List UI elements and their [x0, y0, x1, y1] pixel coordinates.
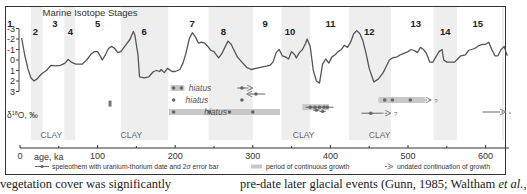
glacial-band	[209, 7, 253, 140]
dated-sample	[391, 98, 395, 102]
dated-sample	[409, 98, 413, 102]
y-tick-label: -1	[7, 45, 15, 55]
dated-sample	[254, 92, 258, 96]
dated-sample	[172, 110, 176, 114]
stage-label: 9	[263, 18, 268, 29]
dated-sample	[228, 110, 232, 114]
dated-sample	[240, 86, 244, 90]
x-tick-label: 500	[400, 151, 415, 161]
stage-label: 3	[52, 18, 57, 29]
grey-bar-symbol	[251, 165, 262, 169]
dated-sample	[180, 86, 184, 90]
stage-label: 10	[285, 26, 296, 37]
y-tick-label: 1	[10, 66, 15, 76]
stage-label: 7	[190, 18, 195, 29]
svg-text:≈: ≈	[509, 110, 511, 116]
clay-label: CLAY	[41, 130, 63, 140]
clay-label: CLAY	[369, 130, 391, 140]
speleothem-sample	[109, 101, 112, 107]
body-text-left: vegetation cover was significantly	[0, 177, 171, 192]
dated-sample	[383, 98, 387, 102]
legend-label: undated continuation of growth	[397, 163, 490, 171]
x-tick-label: 600	[478, 151, 493, 161]
dated-sample	[240, 98, 244, 102]
svg-text:?: ?	[394, 111, 398, 117]
y-axis-label: δ18O, ‰	[7, 110, 38, 120]
body-text-right: pre-date later glacial events (Gunn, 198…	[240, 177, 527, 192]
stage-label: 8	[221, 26, 226, 37]
dated-sample	[308, 105, 312, 109]
clay-label: CLAY	[121, 130, 143, 140]
x-tick-label: 200	[168, 151, 183, 161]
x-axis: 0100200300400500600	[17, 145, 508, 161]
dated-sample	[313, 105, 317, 109]
glacial-band	[502, 7, 504, 140]
stage-label: 2	[33, 26, 38, 37]
legend-label: speleothem with uranium-thorium date and…	[52, 163, 219, 171]
x-tick-label: 300	[245, 151, 260, 161]
body-text-right-prefix: pre-date later glacial events (Gunn, 198…	[240, 177, 498, 191]
hiatus-label: hiatus	[204, 107, 227, 117]
x-tick-label: 100	[90, 151, 105, 161]
body-text-left-span: vegetation cover was significantly	[0, 177, 171, 191]
x-axis-label: age, ka	[34, 152, 64, 162]
hiatus-label: hiatus	[189, 83, 212, 93]
dated-sample	[325, 105, 329, 109]
stage-label: 12	[364, 26, 375, 37]
stage-label: 5	[95, 18, 101, 29]
legend: speleothem with uranium-thorium date and…	[35, 163, 490, 171]
x-tick-label: 400	[323, 151, 338, 161]
dated-sample	[322, 105, 326, 109]
y-tick-label: 0	[10, 55, 15, 65]
body-text-right-italic: et al.	[498, 177, 523, 191]
clay-label: CLAY	[293, 130, 315, 140]
dated-sample	[369, 111, 373, 115]
y-tick-label: 2	[10, 76, 15, 86]
y-axis: -3-2-10123	[7, 24, 19, 97]
dated-sample	[251, 110, 255, 114]
y-tick-label: -3	[7, 24, 15, 34]
stage-label: 6	[142, 26, 147, 37]
stage-label: 14	[440, 26, 451, 37]
stage-label: 11	[325, 18, 336, 29]
dated-sample	[318, 105, 322, 109]
hiatus-label: hiatus	[186, 95, 209, 105]
y-tick-label: -2	[7, 34, 15, 44]
stage-label: 13	[410, 18, 421, 29]
dated-sample	[172, 86, 176, 90]
x-tick-label: 0	[17, 151, 22, 161]
stage-label: 15	[473, 18, 484, 29]
stage-label: 4	[68, 26, 74, 37]
y-tick-label: 3	[10, 87, 15, 97]
chart-title: Marine Isotope Stages	[42, 7, 137, 18]
dated-sample	[172, 98, 176, 102]
body-text-right-suffix: ,	[523, 177, 526, 191]
legend-label: period of continuous growth	[266, 163, 350, 171]
